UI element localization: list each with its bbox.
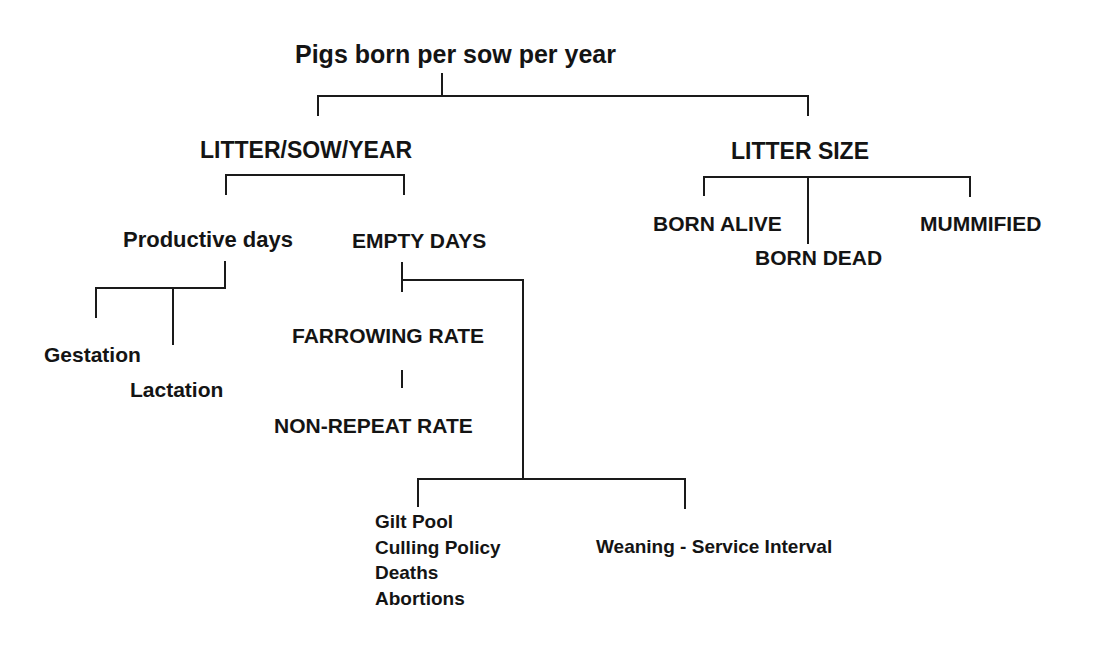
node-productive-days: Productive days bbox=[123, 229, 293, 251]
node-non-repeat-rate: NON-REPEAT RATE bbox=[274, 415, 473, 436]
factor-gilt-pool: Gilt Pool bbox=[375, 509, 501, 535]
factor-deaths: Deaths bbox=[375, 560, 501, 586]
node-litter-size: LITTER SIZE bbox=[731, 140, 869, 163]
node-weaning-service-interval: Weaning - Service Interval bbox=[596, 537, 832, 556]
node-born-alive: BORN ALIVE bbox=[653, 213, 782, 234]
node-farrowing-rate: FARROWING RATE bbox=[292, 325, 484, 346]
node-litter-sow-year: LITTER/SOW/YEAR bbox=[200, 139, 412, 162]
node-mummified: MUMMIFIED bbox=[920, 213, 1041, 234]
node-factor-list: Gilt Pool Culling Policy Deaths Abortion… bbox=[375, 509, 501, 611]
factor-abortions: Abortions bbox=[375, 586, 501, 612]
diagram-canvas: Pigs born per sow per year LITTER/SOW/YE… bbox=[0, 0, 1093, 656]
factor-culling-policy: Culling Policy bbox=[375, 535, 501, 561]
node-gestation: Gestation bbox=[44, 344, 141, 365]
node-lactation: Lactation bbox=[130, 379, 223, 400]
node-empty-days: EMPTY DAYS bbox=[352, 230, 486, 251]
root-node-label: Pigs born per sow per year bbox=[295, 42, 616, 67]
node-born-dead: BORN DEAD bbox=[755, 247, 882, 268]
connector-lines bbox=[0, 0, 1093, 656]
